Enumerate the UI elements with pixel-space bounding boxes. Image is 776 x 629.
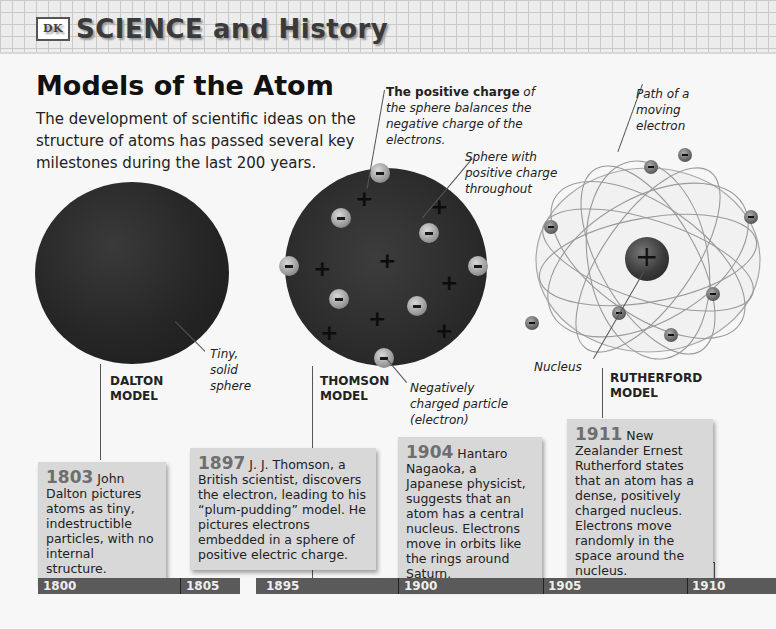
timeline-label: 1905 bbox=[548, 579, 581, 593]
event-year: 1803 bbox=[46, 467, 93, 487]
plus-icon: + bbox=[368, 308, 386, 330]
electron-icon bbox=[544, 220, 558, 234]
timeline-label: 1800 bbox=[43, 579, 76, 593]
event-1911: 1911 New Zealander Ernest Rutherford sta… bbox=[567, 419, 713, 586]
caption-nucleus: Nucleus bbox=[534, 359, 582, 375]
label-thomson-model: THOMSON MODEL bbox=[320, 374, 390, 404]
plus-icon: + bbox=[320, 322, 338, 344]
electron-icon bbox=[644, 160, 658, 174]
event-1803: 1803 John Dalton pictures atoms as tiny,… bbox=[38, 462, 166, 584]
timeline-tick bbox=[543, 578, 544, 594]
banner-title: DK SCIENCE and History bbox=[36, 14, 388, 44]
electron-icon bbox=[419, 223, 439, 243]
event-text: John Dalton pictures atoms as tiny, inde… bbox=[46, 471, 154, 576]
timeline-label: 1805 bbox=[186, 579, 219, 593]
plus-icon: + bbox=[313, 258, 331, 280]
electron-icon bbox=[678, 148, 692, 162]
event-1897: 1897 J. J. Thomson, a British scientist,… bbox=[190, 448, 376, 570]
nucleus: + bbox=[625, 237, 669, 281]
caption-negative-particle: Negatively charged particle (electron) bbox=[410, 380, 520, 428]
caption-path-electron: Path of a moving electron bbox=[636, 86, 716, 134]
event-year: 1911 bbox=[575, 424, 622, 444]
timeline-label: 1910 bbox=[692, 579, 725, 593]
electron-icon bbox=[468, 256, 488, 276]
electron-icon bbox=[744, 210, 758, 224]
plus-icon: + bbox=[635, 242, 658, 272]
electron-icon bbox=[279, 256, 299, 276]
electron-icon bbox=[370, 163, 390, 183]
banner-title-text: SCIENCE and History bbox=[76, 14, 388, 44]
header-banner: DK SCIENCE and History bbox=[0, 0, 776, 54]
timeline-tick bbox=[180, 578, 181, 594]
event-year: 1904 bbox=[406, 442, 453, 462]
plus-icon: + bbox=[355, 188, 373, 210]
connector-line bbox=[100, 364, 101, 460]
timeline-tick bbox=[687, 578, 688, 594]
plus-icon: + bbox=[440, 272, 458, 294]
plus-icon: + bbox=[430, 196, 448, 218]
timeline-label: 1900 bbox=[404, 579, 437, 593]
electron-icon bbox=[664, 328, 678, 342]
intro-text: The development of scientific ideas on t… bbox=[36, 108, 356, 174]
plus-icon: + bbox=[435, 320, 453, 342]
connector-line bbox=[312, 366, 313, 448]
event-text: New Zealander Ernest Rutherford states t… bbox=[575, 428, 694, 578]
electron-icon bbox=[331, 208, 351, 228]
caption-tiny-solid: Tiny, solid sphere bbox=[210, 346, 260, 394]
event-year: 1897 bbox=[198, 453, 245, 473]
plus-icon: + bbox=[378, 250, 396, 272]
label-rutherford-model: RUTHERFORD MODEL bbox=[610, 371, 700, 401]
electron-icon bbox=[706, 287, 720, 301]
event-text: Hantaro Nagaoka, a Japanese physicist, s… bbox=[406, 446, 526, 581]
electron-icon bbox=[329, 289, 349, 309]
event-text: J. J. Thomson, a British scientist, disc… bbox=[198, 457, 366, 562]
connector-line bbox=[602, 368, 603, 418]
caption-positive-charge: The positive charge of the sphere balanc… bbox=[386, 84, 554, 148]
dalton-sphere bbox=[35, 182, 229, 364]
event-1904: 1904 Hantaro Nagaoka, a Japanese physici… bbox=[398, 437, 542, 589]
electron-icon bbox=[525, 316, 539, 330]
timeline-label: 1895 bbox=[266, 579, 299, 593]
connector-line bbox=[714, 562, 715, 578]
page-title: Models of the Atom bbox=[36, 70, 334, 101]
label-dalton-model: DALTON MODEL bbox=[110, 374, 170, 404]
timeline-tick bbox=[398, 578, 399, 594]
dk-logo-icon: DK bbox=[36, 17, 70, 41]
electron-icon bbox=[407, 296, 427, 316]
